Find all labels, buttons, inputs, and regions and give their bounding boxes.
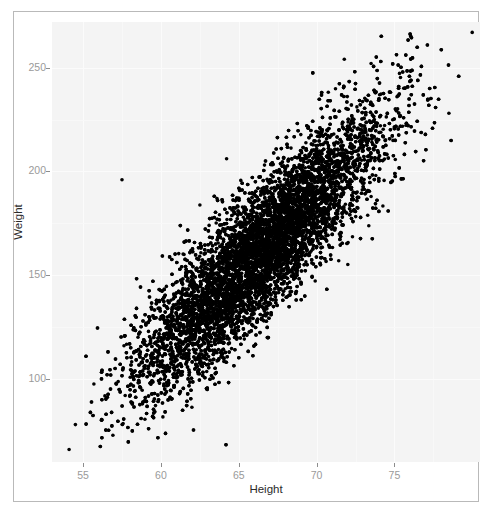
- y-axis-title: Weight: [12, 182, 24, 262]
- y-axis-tick-mark: [46, 379, 50, 380]
- x-axis-tick-mark: [239, 463, 240, 467]
- y-axis-tick-label: 250: [6, 61, 46, 73]
- x-axis-tick-mark: [394, 463, 395, 467]
- x-axis-tick-label: 75: [374, 469, 414, 481]
- x-axis-tick-label: 60: [141, 469, 181, 481]
- y-axis-tick-label: 200: [6, 164, 46, 176]
- x-axis-tick-mark: [317, 463, 318, 467]
- x-axis-tick-mark: [161, 463, 162, 467]
- plot-panel: [52, 22, 480, 462]
- scatter-plot-figure: Weight Height 1001502002505560657075: [0, 0, 492, 515]
- x-axis-tick-label: 55: [63, 469, 103, 481]
- y-axis-tick-mark: [46, 275, 50, 276]
- data-points-layer: [52, 22, 480, 462]
- x-axis-title: Height: [52, 483, 480, 495]
- y-axis-tick-label: 100: [6, 372, 46, 384]
- x-axis-tick-mark: [83, 463, 84, 467]
- y-axis-tick-mark: [46, 68, 50, 69]
- y-axis-tick-label: 150: [6, 268, 46, 280]
- x-axis-tick-label: 65: [219, 469, 259, 481]
- y-axis-tick-mark: [46, 171, 50, 172]
- x-axis-tick-label: 70: [297, 469, 337, 481]
